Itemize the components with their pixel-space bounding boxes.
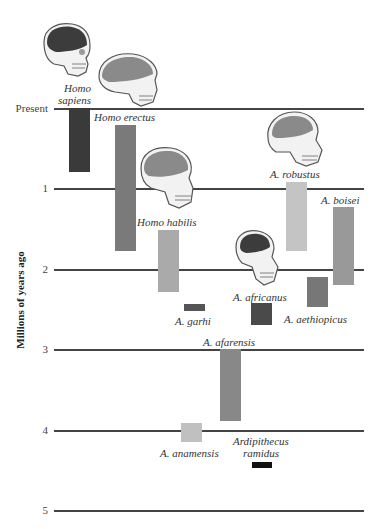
bar-a-africanus (251, 303, 272, 325)
bar-homo-habilis (158, 230, 179, 292)
label-a-anamensis: A. anamensis (160, 447, 219, 459)
label-homo-erectus: Homo erectus (94, 111, 155, 123)
tick-label-present: Present (0, 102, 48, 114)
gridline-5 (54, 510, 364, 512)
label-a-garhi: A. garhi (175, 315, 211, 327)
label-a-africanus: A. africanus (233, 291, 287, 303)
label-a-afarensis: A. afarensis (203, 336, 255, 348)
bar-a-boisei (333, 207, 354, 285)
tick-label-2: 2 (0, 263, 48, 275)
bar-a-afarensis (220, 349, 241, 421)
label-ardipithecus-line1: Ardipithecus (233, 435, 289, 447)
label-a-aethiopicus: A. aethiopicus (284, 313, 347, 325)
bar-a-robustus (286, 182, 307, 251)
homo-erectus-skull-icon (95, 46, 165, 110)
gridline-2 (54, 269, 364, 271)
bar-homo-erectus (115, 125, 136, 251)
bar-ardipithecus-ramidus (252, 462, 272, 468)
tick-label-1: 1 (0, 182, 48, 194)
bar-a-anamensis (181, 423, 202, 442)
homo-sapiens-skull-icon (38, 20, 98, 80)
bar-homo-sapiens (69, 108, 90, 172)
a-robustus-skull-icon (262, 108, 328, 170)
bar-a-garhi (184, 304, 205, 311)
gridline-1 (54, 188, 364, 190)
gridline-3 (54, 349, 364, 351)
gridline-4 (54, 430, 364, 432)
homo-habilis-skull-icon (135, 142, 205, 214)
hominin-timeline-chart: Millions of years ago Present 1 2 3 4 5 … (0, 0, 382, 529)
label-a-boisei: A. boisei (321, 194, 360, 206)
tick-label-4: 4 (0, 424, 48, 436)
label-ardipithecus-line2: ramidus (243, 447, 279, 459)
tick-label-3: 3 (0, 343, 48, 355)
a-africanus-skull-icon (230, 227, 285, 289)
label-homo-sapiens-line2: sapiens (58, 94, 91, 106)
label-homo-habilis: Homo habilis (137, 216, 197, 228)
bar-a-aethiopicus (307, 277, 328, 307)
tick-label-5: 5 (0, 504, 48, 516)
label-homo-sapiens-line1: Homo (64, 82, 91, 94)
